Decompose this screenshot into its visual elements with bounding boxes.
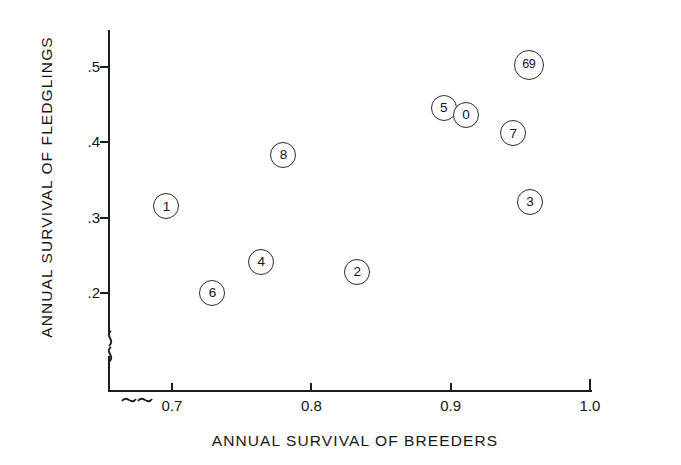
y-tick-label: .5 xyxy=(70,58,100,75)
data-point-8: 8 xyxy=(270,142,296,168)
y-tick-label-wrap: .2 xyxy=(64,293,100,294)
data-point-69: 69 xyxy=(514,50,544,80)
x-tick-label: 0.9 xyxy=(421,397,481,414)
x-tick-label: 1.0 xyxy=(560,397,620,414)
x-tick-mark xyxy=(450,383,452,391)
y-tick-mark xyxy=(100,141,109,143)
y-tick-label: .4 xyxy=(70,133,100,150)
x-tick-mark xyxy=(589,379,591,391)
data-point-2: 2 xyxy=(344,259,370,285)
y-tick-label-wrap: .5 xyxy=(64,67,100,68)
y-tick-mark xyxy=(100,217,109,219)
x-tick-label: 0.7 xyxy=(142,397,202,414)
y-tick-label: .3 xyxy=(70,209,100,226)
y-tick-label: .2 xyxy=(70,284,100,301)
y-tick-label-wrap: .3 xyxy=(64,218,100,219)
x-tick-mark xyxy=(171,383,173,391)
y-tick-label-wrap: .4 xyxy=(64,142,100,143)
y-axis-title: ANNUAL SURVIVAL OF FLEDGLINGS xyxy=(38,22,56,352)
y-tick-mark xyxy=(100,292,109,294)
data-point-7: 7 xyxy=(500,120,526,146)
data-point-0: 0 xyxy=(453,102,479,128)
y-axis-line xyxy=(108,30,110,335)
x-axis-title: ANNUAL SURVIVAL OF BREEDERS xyxy=(110,432,600,450)
x-tick-label: 0.8 xyxy=(281,397,341,414)
data-point-3: 3 xyxy=(517,189,543,215)
y-axis-break-icon xyxy=(96,330,124,364)
x-tick-mark xyxy=(310,383,312,391)
y-tick-mark xyxy=(100,66,109,68)
scatter-plot-figure: ANNUAL SURVIVAL OF FLEDGLINGS ANNUAL SUR… xyxy=(0,0,681,465)
data-point-4: 4 xyxy=(248,249,274,275)
x-axis-line xyxy=(108,390,592,392)
data-point-6: 6 xyxy=(199,280,225,306)
data-point-1: 1 xyxy=(153,193,179,219)
